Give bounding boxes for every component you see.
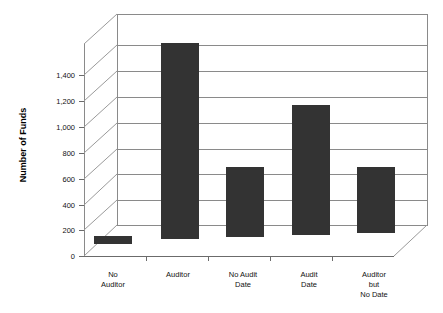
gridline-depth-1200 xyxy=(84,71,117,101)
y-tick-label-0: 0 xyxy=(71,252,75,261)
y-tick-label-1000: 1,000 xyxy=(56,123,75,132)
bar-chart-figure: 1,400 1,200 1,000 800 600 400 200 0 Numb… xyxy=(0,0,443,313)
gridline-depth-800 xyxy=(84,123,117,153)
bar-auditor[interactable] xyxy=(161,43,199,239)
y-tick-label-800: 800 xyxy=(62,149,75,158)
x-axis-category-labels: No Auditor Auditor No Audit Date Audit D… xyxy=(101,270,388,299)
y-axis-title: Number of Funds xyxy=(18,108,28,183)
depth-edge-top-left xyxy=(84,14,117,44)
bar-no-audit-date[interactable] xyxy=(226,167,264,237)
y-axis-tick-labels: 1,400 1,200 1,000 800 600 400 200 0 xyxy=(56,71,75,261)
y-tick-label-1200: 1,200 xyxy=(56,97,75,106)
cat-label-4-line2: Date xyxy=(301,280,317,289)
gridline-depth-200 xyxy=(84,200,117,230)
gridline-depth-400 xyxy=(84,174,117,205)
bar-auditor-but-no-date[interactable] xyxy=(357,167,395,233)
bar-audit-date[interactable] xyxy=(292,105,330,235)
cat-label-2-line1: Auditor xyxy=(166,270,190,279)
cat-label-5-line1: Auditor xyxy=(362,270,386,279)
bar-no-auditor[interactable] xyxy=(94,236,132,244)
cat-label-5-line2: but xyxy=(369,280,380,289)
y-tick-label-400: 400 xyxy=(62,201,75,210)
y-tick-label-200: 200 xyxy=(62,226,75,235)
y-axis-ticks xyxy=(79,75,84,256)
cat-label-4-line1: Audit xyxy=(300,270,318,279)
gridline-depth-1000 xyxy=(84,97,117,127)
bar-series xyxy=(94,43,395,244)
y-tick-label-600: 600 xyxy=(62,175,75,184)
gridline-depth-1400 xyxy=(84,45,117,75)
cat-label-5-line3: No Date xyxy=(360,290,388,299)
cat-label-1-line2: Auditor xyxy=(101,280,125,289)
cat-label-3-line1: No Audit xyxy=(229,270,258,279)
depth-edge-bottom-right xyxy=(394,225,427,256)
cat-label-1-line1: No xyxy=(108,270,118,279)
chart-canvas: 1,400 1,200 1,000 800 600 400 200 0 Numb… xyxy=(0,0,443,313)
cat-label-3-line2: Date xyxy=(235,280,251,289)
y-tick-label-1400: 1,400 xyxy=(56,71,75,80)
gridline-depth-600 xyxy=(84,149,117,179)
x-axis-ticks xyxy=(146,256,332,261)
